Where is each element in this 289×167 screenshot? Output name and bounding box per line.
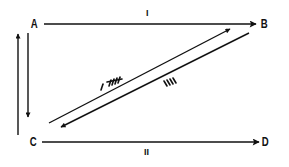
node-a-label: A bbox=[31, 18, 38, 30]
diagram-canvas bbox=[0, 0, 289, 167]
node-c-label: C bbox=[30, 136, 37, 148]
edge-a-to-b-label: I bbox=[146, 9, 149, 18]
node-d-label: D bbox=[262, 136, 269, 148]
edge-c-to-b bbox=[49, 29, 230, 123]
node-b-label: B bbox=[261, 18, 268, 30]
tally-marks-b-to-c bbox=[164, 78, 176, 86]
edge-c-to-d-label: II bbox=[144, 148, 149, 157]
edge-b-to-c bbox=[61, 33, 249, 127]
tally-marks-c-to-b bbox=[101, 77, 122, 90]
